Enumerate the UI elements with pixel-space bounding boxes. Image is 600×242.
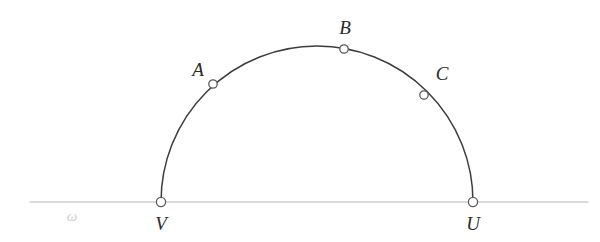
- point-label-a: A: [192, 60, 204, 79]
- point-label-v: V: [155, 214, 167, 233]
- line-label-omega: ω: [67, 209, 78, 224]
- point-label-c: C: [436, 64, 449, 83]
- point-marker-a: [209, 80, 217, 88]
- semicircle-arc-VU: [161, 46, 473, 202]
- point-marker-c: [420, 91, 428, 99]
- geometry-figure: A B C V U ω: [0, 0, 600, 242]
- point-marker-b: [340, 45, 348, 53]
- point-marker-v: [156, 197, 165, 206]
- figure-canvas: [0, 0, 600, 242]
- point-marker-u: [468, 197, 477, 206]
- point-label-b: B: [339, 18, 351, 37]
- point-label-u: U: [466, 214, 480, 233]
